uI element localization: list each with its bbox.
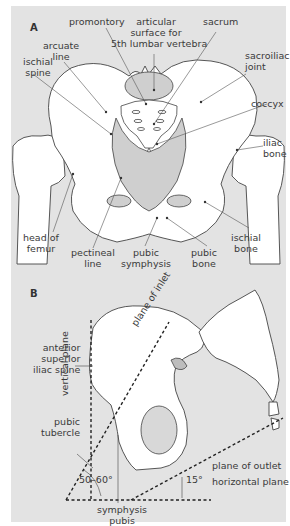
panel-b-pelvis-lateral-view: B anterior superior iliac spine vertical… [11, 270, 286, 522]
label-sacrum: sacrum [203, 16, 238, 27]
label-articular-surface: articular surface for 5th lumbar vertebr… [111, 16, 201, 49]
panel-b-letter: B [30, 288, 38, 299]
label-iliac-bone: iliac bone [263, 137, 287, 159]
label-head-of-femur: head of femur [23, 232, 59, 254]
label-plane-of-outlet: plane of outlet [212, 460, 281, 471]
label-horizontal-plane: horizontal plane [212, 476, 289, 487]
label-ischial-bone: ischial bone [231, 232, 261, 254]
label-angle-inlet: 50–60° [79, 474, 113, 485]
label-symphysis-pubis: symphysis pubis [97, 504, 147, 526]
label-sacroiliac-joint: sacroiliac joint [245, 50, 289, 72]
label-pubic-symphysis: pubic symphysis [121, 247, 171, 269]
label-anterior-superior-iliac-spine: anterior superior iliac spine [33, 342, 80, 375]
label-angle-outlet: 15° [186, 474, 203, 485]
label-vertical-plane: vertical plane [59, 331, 70, 396]
panel-a-pelvis-anterior-view: A promontory articular surface for 5th l… [11, 6, 286, 270]
label-pubic-bone: pubic bone [191, 247, 217, 269]
label-ischial-spine: ischial spine [23, 56, 53, 78]
panel-a-letter: A [30, 22, 38, 33]
label-pubic-tubercle: pubic tubercle [41, 416, 80, 438]
label-coccyx: coccyx [251, 98, 284, 109]
label-pectineal-line: pectineal line [71, 247, 115, 269]
